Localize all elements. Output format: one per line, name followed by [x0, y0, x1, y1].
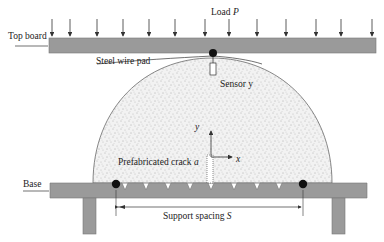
base-label: Base — [23, 180, 41, 190]
y-axis-label: y — [195, 123, 199, 133]
prefabricated-crack — [207, 155, 213, 183]
crack-label: Prefabricated crack a — [118, 158, 199, 168]
load-label: Load P — [211, 8, 239, 18]
dim-arrowhead-left — [119, 205, 125, 209]
left-leg — [83, 198, 96, 234]
load-ball — [209, 49, 217, 57]
right-leg — [332, 198, 345, 234]
left-support-ball — [112, 180, 120, 188]
right-support-ball — [299, 180, 307, 188]
sensor-body — [210, 63, 216, 75]
top-board-label: Top board — [8, 32, 47, 42]
x-axis-label: x — [236, 155, 240, 165]
load-arrows — [52, 19, 372, 36]
base-board — [50, 183, 367, 198]
sensor-label: Sensor y — [220, 80, 253, 90]
support-spacing-label: Support spacing S — [163, 212, 232, 222]
test-setup-diagram — [0, 0, 384, 242]
steel-wire-pad-label: Steel wire pad — [96, 57, 150, 67]
